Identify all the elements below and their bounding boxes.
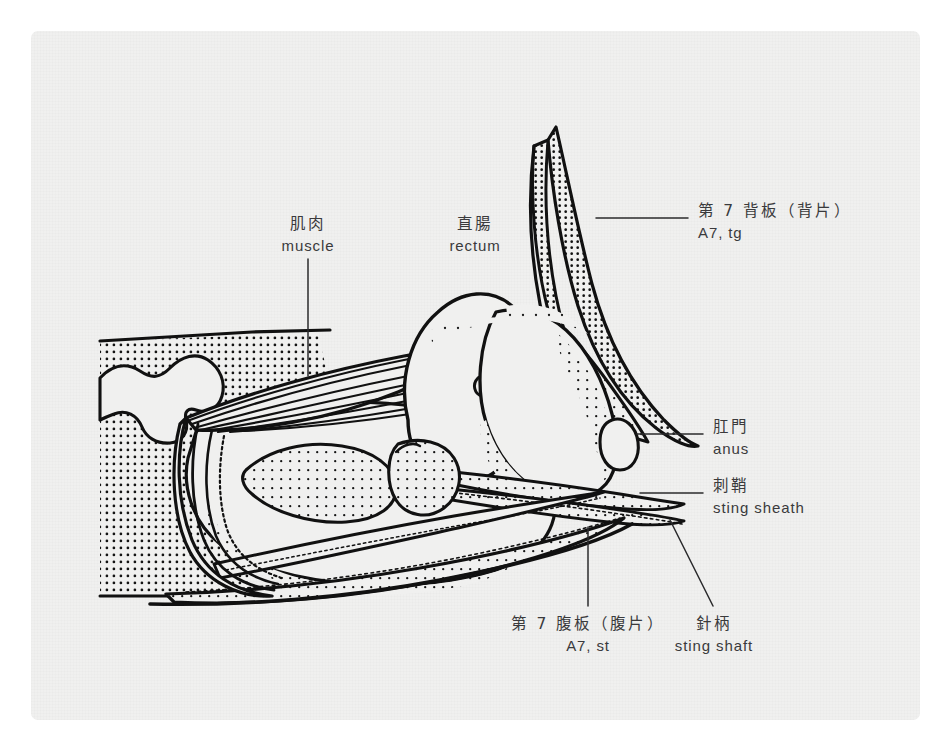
label-tergite7-romaji: A7, tg <box>698 222 852 243</box>
label-anus-cjk: 肛門 <box>713 416 749 438</box>
label-sternite7: 第 7 腹板（腹片） A7, st <box>494 613 682 656</box>
gland-lobe <box>389 440 460 515</box>
label-sting-sheath: 刺鞘 sting sheath <box>713 475 805 518</box>
label-sting-sheath-romaji: sting sheath <box>713 497 805 518</box>
label-rectum-cjk: 直腸 <box>420 213 530 235</box>
anus <box>600 419 638 470</box>
label-sternite7-romaji: A7, st <box>494 635 682 656</box>
label-rectum: 直腸 rectum <box>420 213 530 256</box>
label-anus-romaji: anus <box>713 438 749 459</box>
label-rectum-romaji: rectum <box>420 235 530 256</box>
label-sting-shaft-romaji: sting shaft <box>655 635 773 656</box>
label-muscle-romaji: muscle <box>253 235 363 256</box>
label-anus: 肛門 anus <box>713 416 749 459</box>
label-tergite7-cjk: 第 7 背板（背片） <box>698 200 852 222</box>
label-sting-sheath-cjk: 刺鞘 <box>713 475 805 497</box>
label-sting-shaft-cjk: 針柄 <box>655 613 773 635</box>
label-muscle: 肌肉 muscle <box>253 213 363 256</box>
label-muscle-cjk: 肌肉 <box>253 213 363 235</box>
label-tergite7: 第 7 背板（背片） A7, tg <box>698 200 852 243</box>
label-sternite7-cjk: 第 7 腹板（腹片） <box>494 613 682 635</box>
label-sting-shaft: 針柄 sting shaft <box>655 613 773 656</box>
figure-root: 肌肉 muscle 直腸 rectum 第 7 背板（背片） A7, tg 肛門… <box>0 0 951 748</box>
anatomy-illustration <box>0 0 951 748</box>
leader-sting-shaft <box>670 520 713 606</box>
